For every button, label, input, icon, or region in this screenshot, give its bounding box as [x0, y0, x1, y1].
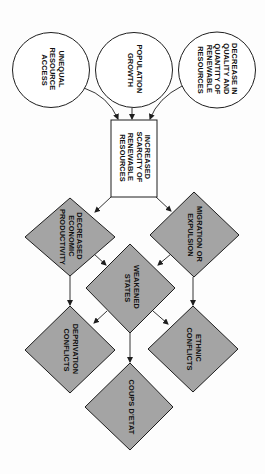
- node-label: DECREASED ECONOMIC PRODUCTIVITY: [58, 209, 84, 265]
- node-label: INCREASED SCARCITY OF RENEWABLE RESOURCE…: [118, 131, 153, 184]
- node-unequal-resource-access: UNEQUAL RESOURCE ACCESS: [13, 33, 90, 108]
- node-label: COUPS D'ETAT: [127, 380, 136, 435]
- node-weakened-states: WEAKENED STATES: [86, 244, 175, 333]
- node-migration-or-expulsion: MIGRATION OR EXPULSION: [150, 192, 239, 277]
- environmental-scarcity-conflict-diagram: UNEQUAL RESOURCE ACCESS POPULATION GROWT…: [0, 0, 265, 474]
- edge-scarcity-to-decreased-productivity: [95, 197, 111, 212]
- edge-weakened-states-to-ethnic: [153, 311, 168, 324]
- edge-decreased-productivity-to-weakened-states: [94, 254, 106, 265]
- node-decreased-economic-productivity: DECREASED ECONOMIC PRODUCTIVITY: [25, 198, 115, 276]
- edge-scarcity-to-migration: [156, 197, 171, 211]
- node-increased-scarcity: INCREASED SCARCITY OF RENEWABLE RESOURCE…: [111, 120, 157, 197]
- node-label: ETHNIC CONFLICTS: [185, 327, 203, 370]
- node-population-growth: POPULATION GROWTH: [96, 33, 173, 108]
- node-label: DECREASE IN QUALITY AND QUANTITY OF RENE…: [196, 43, 239, 97]
- edge-migration-to-weakened-states: [158, 254, 171, 265]
- edge-weakened-states-to-deprivation: [94, 311, 107, 323]
- node-deprivation-conflicts: DEPRIVATION CONFLICTS: [25, 306, 115, 393]
- node-label: DEPRIVATION CONFLICTS: [62, 324, 80, 377]
- node-label: UNEQUAL RESOURCE ACCESS: [40, 48, 66, 93]
- node-label: MIGRATION OR EXPULSION: [186, 206, 204, 264]
- node-decrease-in-renewable-resources: DECREASE IN QUALITY AND QUANTITY OF RENE…: [179, 32, 256, 108]
- node-coups-d-etat: COUPS D'ETAT: [85, 363, 173, 450]
